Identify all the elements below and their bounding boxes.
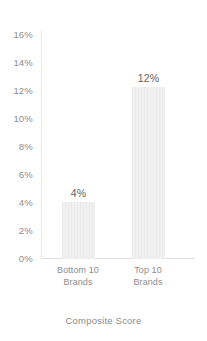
- y-axis-tick-label: 0%: [0, 254, 33, 264]
- bar-chart: 16% 14% 12% 10% 8% 6% 4% 2% 0% 4% 12% Bo…: [0, 0, 207, 341]
- y-axis-tick-label: 10%: [0, 114, 33, 124]
- bar-bottom-10-brands[interactable]: [62, 202, 95, 259]
- bar-value-label: 12%: [119, 72, 179, 84]
- plot-area: [41, 30, 195, 259]
- x-axis-category-line1: Top 10: [134, 265, 162, 275]
- bar-top-10-brands[interactable]: [132, 87, 165, 259]
- x-axis-title: Composite Score: [0, 315, 207, 326]
- x-axis-category-line1: Bottom 10: [57, 265, 99, 275]
- x-axis-category-line2: Brands: [111, 276, 185, 288]
- x-axis-category-line2: Brands: [41, 276, 115, 288]
- y-axis-tick-label: 14%: [0, 58, 33, 68]
- y-axis-tick-label: 8%: [0, 142, 33, 152]
- y-axis-tick-label: 4%: [0, 198, 33, 208]
- y-axis-tick-label: 6%: [0, 170, 33, 180]
- bar-value-label: 4%: [49, 187, 109, 199]
- x-axis-category-label: Bottom 10 Brands: [41, 264, 115, 288]
- y-axis-tick-label: 12%: [0, 86, 33, 96]
- y-axis-tick-label: 16%: [0, 30, 33, 40]
- x-axis-category-label: Top 10 Brands: [111, 264, 185, 288]
- y-axis-tick-label: 2%: [0, 226, 33, 236]
